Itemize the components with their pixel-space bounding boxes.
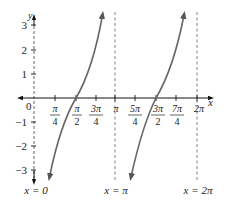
tick-label-2pi: 2π bbox=[194, 103, 205, 114]
svg-text:3π: 3π bbox=[152, 103, 164, 114]
tick-label-3pi-over-2: 3π 2 bbox=[151, 103, 165, 127]
svg-text:7π: 7π bbox=[172, 103, 183, 114]
tick-label-pi-over-4: π 4 bbox=[50, 103, 60, 127]
svg-text:4: 4 bbox=[94, 116, 99, 127]
svg-text:−2: −2 bbox=[15, 140, 27, 152]
cotangent-graph: 3 2 1 −1 −2 −3 y x 0 π 4 π 2 3π 4 π 5π 4 bbox=[0, 0, 229, 206]
svg-text:−1: −1 bbox=[15, 116, 27, 128]
svg-text:2: 2 bbox=[22, 44, 28, 56]
tick-label-7pi-over-4: 7π 4 bbox=[170, 103, 184, 127]
tick-label-pi-over-2: π 2 bbox=[72, 103, 82, 127]
tick-label-5pi-over-4: 5π 4 bbox=[128, 103, 142, 127]
x-tick-labels: π 4 π 2 3π 4 π 5π 4 3π 2 7π 4 bbox=[50, 103, 205, 127]
svg-text:2: 2 bbox=[75, 116, 80, 127]
asymptote-label-x2pi: x = 2π bbox=[183, 184, 213, 196]
svg-text:π: π bbox=[74, 103, 80, 114]
svg-text:4: 4 bbox=[53, 116, 58, 127]
origin-label: 0 bbox=[26, 100, 32, 112]
svg-text:−3: −3 bbox=[15, 164, 27, 176]
svg-text:2: 2 bbox=[156, 116, 161, 127]
svg-text:3: 3 bbox=[22, 19, 28, 31]
svg-text:5π: 5π bbox=[130, 103, 141, 114]
svg-text:1: 1 bbox=[22, 68, 28, 80]
asymptote-label-x0: x = 0 bbox=[23, 184, 48, 196]
svg-text:4: 4 bbox=[175, 116, 180, 127]
tick-label-3pi-over-4: 3π 4 bbox=[89, 103, 103, 127]
svg-text:π: π bbox=[52, 103, 58, 114]
x-axis-label: x bbox=[207, 96, 213, 108]
svg-text:4: 4 bbox=[133, 116, 138, 127]
asymptote-labels: x = 0 x = π x = 2π bbox=[23, 184, 213, 196]
asymptote-label-xpi: x = π bbox=[103, 184, 128, 196]
y-axis-label: y bbox=[27, 10, 33, 21]
svg-text:3π: 3π bbox=[90, 103, 102, 114]
tick-label-pi: π bbox=[113, 103, 119, 114]
